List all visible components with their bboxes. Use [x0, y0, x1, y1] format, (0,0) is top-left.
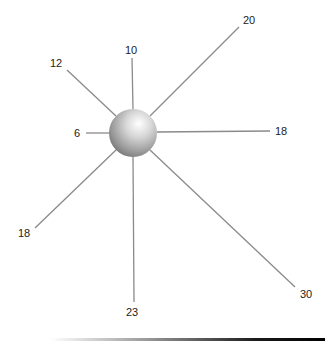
spoke-upper-right: [150, 27, 239, 116]
spokes-group: [35, 27, 295, 302]
spoke-label-upper-right: 20: [243, 14, 255, 26]
spoke-label-upper-left: 12: [50, 57, 62, 69]
spoke-right: [157, 131, 270, 132]
spoke-label-right: 18: [275, 125, 287, 137]
spoke-down: [133, 157, 134, 302]
spoke-label-lower-left: 18: [18, 227, 30, 239]
spoke-lower-left: [35, 150, 116, 228]
spoke-label-lower-right: 30: [300, 288, 312, 300]
hub-sphere: [109, 109, 157, 157]
spoke-label-up: 10: [125, 44, 137, 56]
radial-spoke-diagram: 101220618182330: [0, 0, 331, 341]
labels-group: 101220618182330: [18, 14, 312, 318]
spoke-label-left: 6: [74, 127, 80, 139]
spoke-upper-left: [67, 70, 116, 116]
spoke-up: [132, 58, 133, 109]
spoke-lower-right: [150, 150, 295, 287]
spoke-label-down: 23: [126, 306, 138, 318]
